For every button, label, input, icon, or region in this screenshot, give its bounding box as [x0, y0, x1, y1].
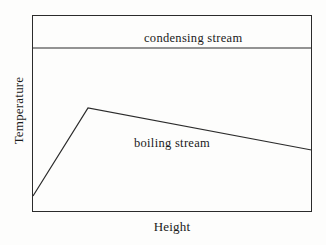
- figure-root: condensing stream boiling stream Tempera…: [0, 0, 326, 245]
- boiling-stream-label: boiling stream: [134, 136, 210, 151]
- condensing-stream-label: condensing stream: [144, 31, 242, 46]
- x-axis-title: Height: [32, 219, 312, 235]
- y-axis-title: Temperature: [9, 12, 29, 209]
